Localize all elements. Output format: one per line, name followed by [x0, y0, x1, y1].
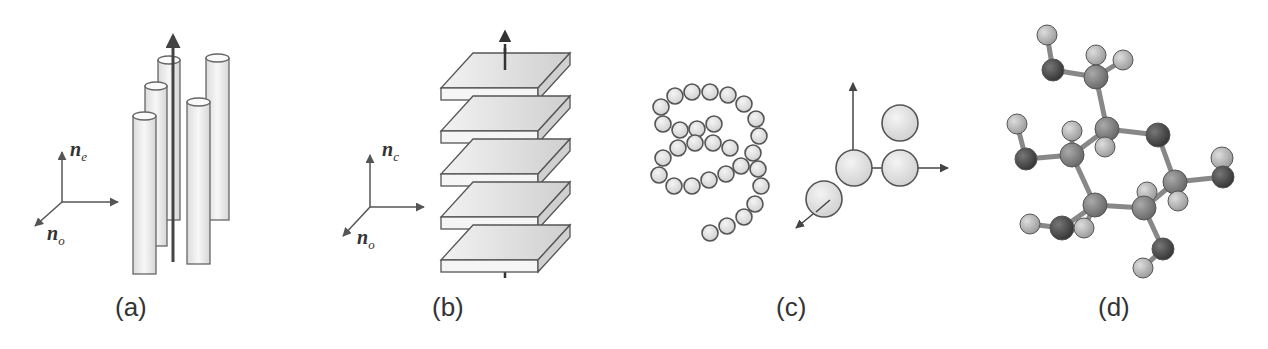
caption-b: (b)	[432, 292, 464, 323]
axis-label-nc: nc	[382, 138, 399, 165]
bead-helix	[651, 84, 769, 241]
rod-columns-diagram	[0, 0, 320, 349]
plates	[441, 53, 570, 272]
panel-a: ne no (a)	[0, 0, 320, 349]
panel-c: (c)	[620, 0, 980, 349]
stacked-plates-diagram	[320, 0, 620, 349]
panel-d: (d)	[980, 0, 1268, 349]
caption-a: (a)	[115, 292, 147, 323]
axis-label-no: no	[357, 226, 375, 253]
caption-d: (d)	[1098, 292, 1130, 323]
atoms	[1007, 25, 1234, 278]
spheres	[806, 105, 918, 217]
axis-label-no: no	[47, 222, 65, 249]
caption-c: (c)	[776, 292, 806, 323]
axes-icon	[343, 155, 424, 236]
panel-b: nc no (b)	[320, 0, 620, 349]
axis-label-ne: ne	[70, 138, 87, 165]
